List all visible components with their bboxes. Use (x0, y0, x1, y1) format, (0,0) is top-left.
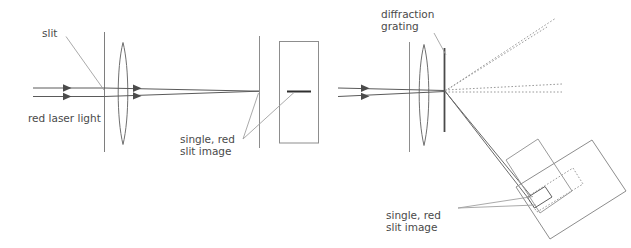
left-ray-arrow-3-icon (133, 85, 142, 92)
left-slit-leader-line (66, 37, 104, 91)
diagram-canvas: slit red laser light single, red slit im… (0, 0, 631, 248)
left-ray-arrow-2-icon (63, 93, 72, 100)
right-grating-label-line1: diffraction (381, 8, 434, 20)
right-slit-image-label-line1: single, red (386, 209, 441, 221)
right-diffracted-ray-up-outer (445, 18, 556, 91)
right-diffracted-ray-horizontal-upper (445, 84, 562, 90)
right-tilted-screen-back-edge (506, 139, 572, 213)
left-converging-lens (118, 43, 128, 145)
left-panel: slit red laser light single, red slit im… (28, 27, 319, 157)
right-diffracted-ray-up-inner (445, 27, 547, 91)
right-diffracted-ray-down-inner (446, 93, 531, 197)
optics-diagram-figure: slit red laser light single, red slit im… (0, 0, 631, 248)
left-ray-arrow-4-icon (133, 92, 142, 99)
right-converging-lens (419, 45, 429, 146)
right-ray-arrow-2-icon (361, 93, 370, 100)
right-grating-leader-line (434, 33, 446, 55)
right-panel: diffraction grating single, red slit ima… (338, 8, 626, 239)
left-slit-image-label-line1: single, red (180, 133, 235, 145)
right-ray-arrow-1-icon (361, 85, 370, 92)
right-grating-label-line2: grating (381, 20, 419, 32)
left-source-label: red laser light (28, 112, 101, 124)
right-slit-image-label-line2: slit image (386, 221, 437, 233)
left-slit-label: slit (42, 27, 57, 39)
left-slit-image-label-line2: slit image (180, 145, 231, 157)
left-ray-arrow-1-icon (63, 84, 72, 91)
